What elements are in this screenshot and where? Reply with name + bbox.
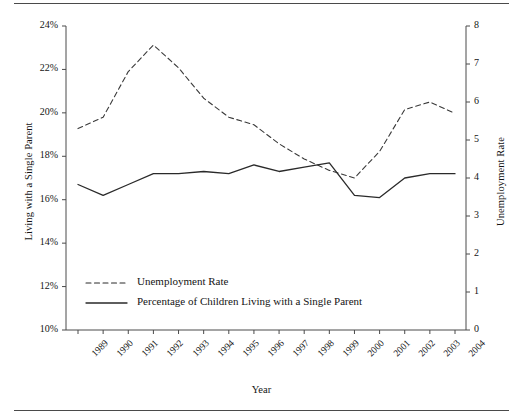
- plot-area: [0, 0, 523, 414]
- series-layer: [78, 45, 455, 198]
- legend-label: Percentage of Children Living with a Sin…: [137, 295, 362, 307]
- series-line-single-parent-percentage: [78, 163, 455, 198]
- series-line-unemployment-rate: [78, 45, 455, 178]
- axis-lines: [62, 26, 470, 334]
- legend-keys: [86, 283, 127, 303]
- chart-figure: Living with a Single Parent Unemployment…: [0, 0, 523, 414]
- legend-label: Unemployment Rate: [137, 275, 228, 287]
